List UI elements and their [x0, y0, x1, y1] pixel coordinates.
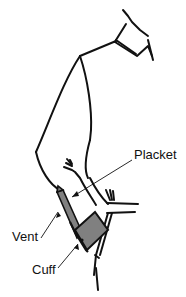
cuff-arrowhead [74, 244, 79, 250]
cuff-label: Cuff [32, 263, 56, 276]
placket-arrowhead [72, 191, 79, 197]
placket-tip [57, 186, 63, 192]
vent-arrowhead [56, 212, 61, 218]
pocket-top [107, 203, 138, 204]
vent-label: Vent [12, 230, 38, 243]
vent-leader [41, 212, 58, 238]
sleeve-diagram: Placket Vent Cuff [0, 0, 186, 297]
forearm-fold [64, 167, 96, 205]
sleeve-outer-edge [36, 56, 80, 152]
neck-line [123, 10, 148, 36]
shoulder-seam [80, 41, 116, 56]
placket-label: Placket [134, 148, 177, 161]
sleeve-inner-edge [80, 56, 91, 140]
torso-edge [86, 140, 90, 178]
